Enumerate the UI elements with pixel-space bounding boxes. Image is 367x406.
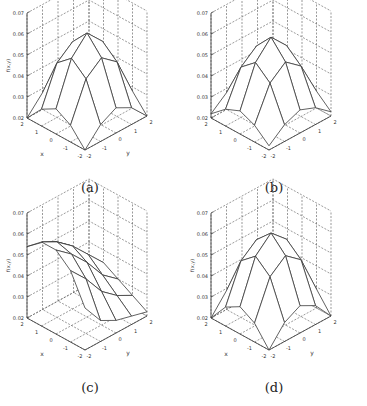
z-tick-label: 0.05 [13,252,24,258]
z-tick-label: 0.04 [197,73,208,79]
y-tick-label: -2 [87,353,92,359]
grid-line-z [211,0,331,13]
y-tick-label: 0 [118,336,121,342]
z-tick-label: 0.03 [197,294,208,300]
x-tick-label: 2 [204,321,207,327]
z-tick [211,233,214,235]
x-tick-label: -1 [63,345,68,351]
grid-line-z [27,221,147,255]
y-tick-label: 2 [149,319,152,325]
y-tick-label: -2 [271,153,276,159]
y-tick-label: -1 [102,345,107,351]
y-tick-label: -2 [271,353,276,359]
x-tick-label: 0 [49,337,52,343]
z-tick-label: 0.05 [197,52,208,58]
z-tick-label: 0.03 [13,294,24,300]
surface-plot-d: 0.020.030.040.050.060.07-2-1012-2-1012xy… [184,200,367,403]
surface-plot-a: 0.020.030.040.050.060.07-2-1012-2-1012xy… [0,0,183,203]
x-tick-label: -1 [63,145,68,151]
y-tick-label: 0 [118,136,121,142]
z-tick [211,296,214,298]
x-tick-label: 1 [219,129,222,135]
x-axis-label: x [40,150,44,157]
z-tick [27,296,30,298]
x-tick-label: -2 [78,353,83,359]
z-tick-label: 0.05 [197,252,208,258]
y-tick-label: 1 [318,328,321,334]
surface-mesh [27,242,147,321]
x-tick-label: 2 [20,121,23,127]
z-tick [211,96,214,98]
z-tick-label: 0.05 [13,52,24,58]
y-tick-label: 2 [149,119,152,125]
z-tick [27,33,30,35]
z-tick-label: 0.04 [13,73,24,79]
z-tick [211,254,214,256]
x-tick-label: 1 [219,329,222,335]
z-tick [211,54,214,56]
y-axis-label: y [126,349,130,357]
y-tick-label: 2 [333,319,336,325]
y-tick-label: -1 [286,145,291,151]
surface-mesh [211,37,331,146]
y-tick-label: -1 [102,145,107,151]
y-tick-label: -2 [87,153,92,159]
x-tick-label: 2 [20,321,23,327]
z-tick-label: 0.07 [197,210,208,216]
grid-line-z [211,0,331,34]
surface-mesh [27,33,147,150]
surface-plot-b-canvas: 0.020.030.040.050.060.07-2-1012-2-1012 [184,0,367,203]
x-tick-label: -2 [262,353,267,359]
z-tick [211,33,214,35]
z-tick [27,233,30,235]
surface-plot-c-canvas: 0.020.030.040.050.060.07-2-1012-2-1012xy… [0,200,183,403]
y-axis-label: y [310,349,314,357]
z-tick [27,54,30,56]
y-tick-label: 2 [333,119,336,125]
z-axis-label: f(x,y) [5,259,12,272]
x-tick-label: -2 [78,153,83,159]
z-tick-label: 0.06 [197,231,208,237]
y-tick-label: 0 [302,336,305,342]
caption-d: (d) [254,380,294,395]
y-tick-label: 1 [134,128,137,134]
x-tick-label: 1 [35,329,38,335]
z-tick [211,212,214,214]
x-tick-label: -1 [247,345,252,351]
grid-line-z [27,0,147,13]
z-tick-label: 0.06 [13,31,24,37]
grid-line-z [211,200,331,234]
z-tick [27,212,30,214]
x-tick-label: 1 [35,129,38,135]
z-tick-label: 0.07 [13,210,24,216]
z-tick-label: 0.04 [13,273,24,279]
z-axis-label: f(x,y) [189,259,196,272]
x-tick-label: -1 [247,145,252,151]
surface-plot-b: 0.020.030.040.050.060.07-2-1012-2-1012 (… [184,0,367,203]
grid-line-z [27,0,147,34]
x-axis-label: x [224,350,228,357]
z-tick [27,254,30,256]
z-tick [27,75,30,77]
z-tick [27,12,30,14]
surface-plot-a-canvas: 0.020.030.040.050.060.07-2-1012-2-1012xy… [0,0,183,203]
z-tick [27,317,30,319]
x-tick-label: 0 [49,137,52,143]
y-tick-label: 0 [302,136,305,142]
x-tick-label: 0 [233,137,236,143]
y-tick-label: 1 [134,328,137,334]
z-tick-label: 0.07 [13,10,24,16]
z-tick [211,75,214,77]
x-axis-label: x [40,350,44,357]
x-tick-label: -2 [262,153,267,159]
y-axis-label: y [126,149,130,157]
surface-mesh [211,233,331,350]
z-tick-label: 0.07 [197,10,208,16]
caption-c: (c) [70,380,110,395]
x-tick-label: 0 [233,337,236,343]
z-tick-label: 0.03 [13,94,24,100]
surface-plot-d-canvas: 0.020.030.040.050.060.07-2-1012-2-1012xy… [184,200,367,403]
z-axis-label: f(x,y) [5,59,12,72]
z-tick-label: 0.06 [13,231,24,237]
y-tick-label: 1 [318,128,321,134]
